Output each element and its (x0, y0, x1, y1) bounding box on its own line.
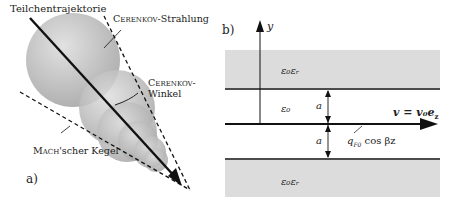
gap-lower-label: a (316, 136, 322, 146)
angle-label: Cerenkov-Winkel (148, 78, 196, 100)
gap-upper-label: a (316, 101, 322, 111)
gap-medium-label: ε₀ (281, 104, 290, 114)
upper-dielectric (225, 50, 440, 88)
lower-dielectric (225, 160, 440, 197)
panel-a-label: a) (26, 173, 38, 185)
cone-label: Mach'scher Kegel (33, 146, 119, 156)
upper-medium-label: ε₀εᵣ (281, 66, 299, 76)
velocity-label: v = v₀ez (393, 107, 438, 120)
trajectory-label: Teilchentrajektorie (10, 4, 106, 14)
panel-b-label: b) (222, 24, 234, 36)
radiation-label: Cerenkov-Strahlung (113, 14, 209, 24)
charge-label: qF0 cos βz (347, 136, 396, 148)
lower-medium-label: ε₀εᵣ (281, 177, 299, 187)
y-axis-label: y (267, 21, 273, 32)
